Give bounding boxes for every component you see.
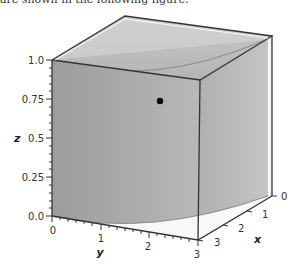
x-axis-title: x xyxy=(253,233,262,246)
y-tick-label: 1 xyxy=(98,233,104,244)
z-tick-label: 0.25 xyxy=(22,172,44,183)
marked-point xyxy=(157,98,163,104)
x-tick-label: 1 xyxy=(262,209,268,220)
surface-plot: 1.0 0.75 0.5 0.25 0.0 z 0 1 2 3 y 0 1 2 … xyxy=(0,0,300,274)
z-tick-label: 0.75 xyxy=(22,94,44,105)
z-tick-label: 0.0 xyxy=(28,211,44,222)
x-tick-label: 0 xyxy=(281,191,287,202)
z-tick-label: 0.5 xyxy=(28,133,44,144)
y-tick-label: 3 xyxy=(194,249,200,260)
y-tick-label: 2 xyxy=(145,241,151,252)
y-tick-label: 0 xyxy=(50,225,56,236)
front-face xyxy=(52,60,200,240)
x-tick-label: 3 xyxy=(214,237,220,248)
z-axis xyxy=(46,60,52,216)
x-tick-label: 2 xyxy=(238,223,244,234)
z-tick-label: 1.0 xyxy=(28,55,44,66)
y-axis-title: y xyxy=(96,246,104,259)
z-axis-title: z xyxy=(13,132,21,145)
